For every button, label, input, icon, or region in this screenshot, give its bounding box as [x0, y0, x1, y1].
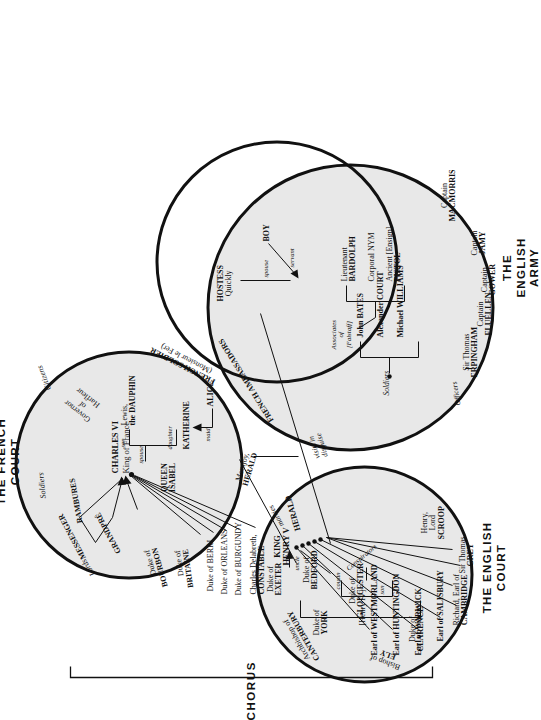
- officer-jamy: Captain JAMY: [470, 230, 487, 255]
- duke-burgundy-label: Duke of BURGUNDY: [233, 522, 242, 595]
- english-court-title-line2: COURT: [494, 497, 508, 637]
- king-henry-v-line2: HENRY V: [281, 527, 290, 565]
- duke-orleans: Duke of ORLEANS: [220, 529, 228, 594]
- english-court-title: THE ENGLISH COURT: [480, 497, 507, 637]
- dauphin: Lewis, the DAUPHIN: [120, 375, 137, 425]
- dauphin-line2: the DAUPHIN: [128, 375, 136, 425]
- nym-label: Corporal NYM: [366, 232, 375, 281]
- associates-line3: [Falstaff]: [345, 319, 352, 349]
- soldier-alexander-court: Alexander COURT: [376, 271, 384, 337]
- jamy-line2: JAMY: [478, 230, 486, 255]
- earl-cambridge: Richard, Earl of CAMBRIDGE: [452, 574, 469, 625]
- chorus-label: CHORUS: [244, 661, 256, 720]
- earl-westmorland: Earl of WESTMORLAND: [370, 564, 378, 655]
- duke-berri-label: Duke of BERRI: [205, 539, 214, 591]
- lord-scroop: Henry, Lord SCROOP: [420, 506, 445, 539]
- gower-line2: GOWER: [488, 263, 496, 295]
- english-army-title-line3: ARMY: [527, 197, 541, 337]
- rel-daughter-french: daughter: [166, 426, 173, 449]
- falstaff-associates-label: Associates of [Falstaff]: [330, 319, 352, 349]
- katherine: KATHERINE: [182, 401, 190, 449]
- earl-huntingdon: Earl of HUNTINGDON: [392, 573, 400, 655]
- sir-thomas-grey: Sir Thomas GREY: [458, 536, 475, 573]
- english-army-title-line2: ENGLISH: [514, 197, 528, 337]
- queen-isabel-line2: ISABEL: [168, 457, 176, 497]
- corporal-nym: Corporal NYM: [367, 232, 375, 281]
- duke-of-york: Duke of YORK: [312, 609, 329, 635]
- ancient-pistol: Ancient [Ensign] PISTOL: [385, 226, 402, 281]
- french-citizens: Citizens: [35, 364, 52, 391]
- bardolph-line2: BARDOLPH: [348, 236, 356, 281]
- officer-fluellen: Captain FLUELLEN: [476, 292, 493, 335]
- exeter-line2: EXETER: [274, 562, 282, 595]
- pistol-line2: PISTOL: [393, 226, 401, 281]
- scroop-line3: SCROOP: [437, 506, 445, 539]
- queen-isabel: QUEEN ISABEL: [160, 457, 177, 497]
- rel-maid-french: maid: [204, 428, 211, 441]
- boy: BOY: [262, 224, 270, 241]
- york-line2: YORK: [320, 609, 328, 635]
- rel-son-english: son: [378, 585, 385, 594]
- officer-macmorris: Captain MACMORRIS: [440, 169, 457, 221]
- earl-salisbury: Earl of SALISBURY: [436, 570, 444, 641]
- french-court-title-line2: COURT: [8, 391, 22, 531]
- hostess-quickly: HOSTESS Quickly: [216, 265, 233, 301]
- duke-of-bedford: Duke of BEDFORD: [302, 550, 319, 589]
- lieutenant-bardolph: Lieutenant BARDOLPH: [340, 236, 357, 281]
- gloucester-line2: GLOUCESTER: [356, 562, 364, 618]
- hostess-line2: Quickly: [224, 265, 232, 301]
- french-court-title: THE FRENCH COURT: [0, 391, 21, 531]
- duke-orleans-label: Duke of ORLEANS: [219, 529, 228, 594]
- rel-spouse-army: spouse: [262, 259, 269, 277]
- french-court-title-line1: THE FRENCH: [0, 391, 8, 531]
- english-army-title: THE ENGLISH ARMY: [500, 197, 541, 337]
- duke-of-exeter: Duke of EXETER: [266, 562, 283, 595]
- macmorris-line2: MACMORRIS: [448, 169, 456, 221]
- earl-warwick: Earl of WARWICK: [414, 588, 422, 655]
- officer-gower: Captain GOWER: [480, 263, 497, 295]
- army-soldiers-label: Soldiers: [382, 370, 390, 395]
- fluellen-line2: FLUELLEN: [484, 292, 492, 335]
- rel-uncle-english: uncle: [293, 556, 300, 570]
- rel-servant-army: servant: [288, 248, 295, 267]
- cambridge-line2: CAMBRIDGE: [460, 574, 468, 625]
- rel-cousin-english: cousin: [334, 572, 341, 589]
- english-court-title-line1: THE ENGLISH: [480, 497, 494, 637]
- duke-burgundy: Duke of BURGUNDY: [234, 522, 242, 595]
- rel-spouse-french: spouse: [137, 445, 144, 463]
- english-army-title-line1: THE: [500, 197, 514, 337]
- bedford-line2: BEDFORD: [310, 550, 318, 589]
- falstaff-associates-circle: [155, 140, 398, 383]
- rel-son-french: son: [119, 438, 126, 447]
- constable: Charles Delabreth, CONSTABLE: [249, 534, 266, 594]
- king-henry-v: KING HENRY V: [272, 527, 290, 565]
- soldier-john-bates: John BATES: [356, 292, 364, 337]
- duke-berri: Duke of BERRI: [206, 539, 214, 591]
- grey-line2: GREY: [466, 536, 474, 573]
